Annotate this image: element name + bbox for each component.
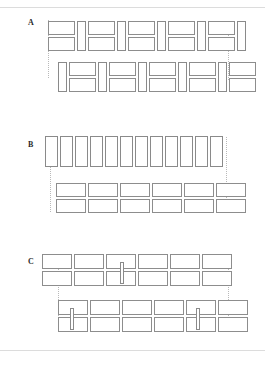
module-wide xyxy=(202,254,232,269)
panel-label-c: C xyxy=(28,258,34,266)
module-wide xyxy=(218,317,248,332)
module-wide xyxy=(122,317,152,332)
module-wide xyxy=(202,271,232,286)
module-wide xyxy=(154,300,184,315)
figure-canvas: ABC xyxy=(0,0,265,365)
module-wide xyxy=(138,271,168,286)
module-wide xyxy=(138,254,168,269)
module-wide xyxy=(42,254,72,269)
module-wide xyxy=(74,271,104,286)
module-wide xyxy=(74,254,104,269)
module-wide xyxy=(186,317,216,332)
module-connector xyxy=(196,308,200,330)
module-wide xyxy=(42,271,72,286)
module-wide xyxy=(90,317,120,332)
module-wide xyxy=(218,300,248,315)
module-connector xyxy=(70,308,74,330)
module-wide xyxy=(170,254,200,269)
module-connector xyxy=(120,262,124,284)
module-wide xyxy=(154,317,184,332)
module-wide xyxy=(90,300,120,315)
module-wide xyxy=(122,300,152,315)
module-wide xyxy=(170,271,200,286)
panel-c: C xyxy=(0,0,265,365)
module-wide xyxy=(186,300,216,315)
